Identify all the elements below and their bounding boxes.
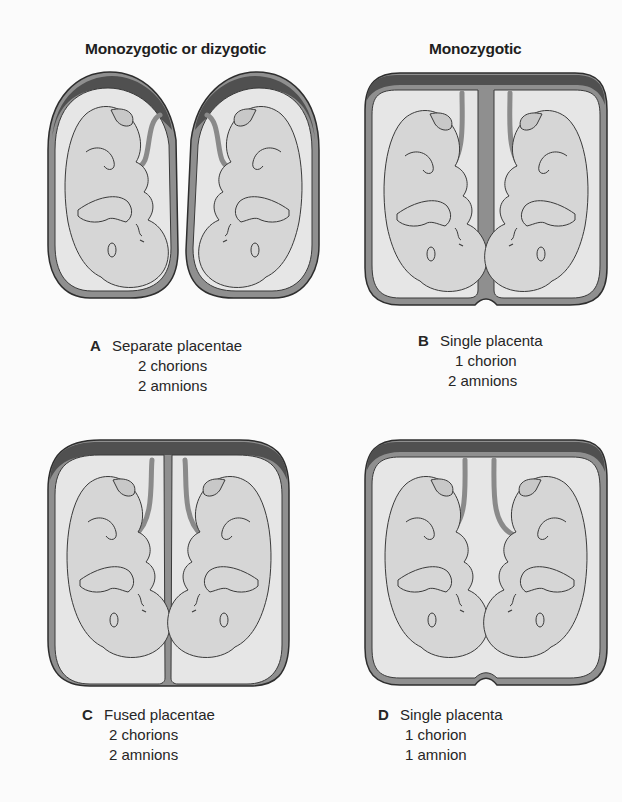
caption-c-amnions: 2 amnions: [82, 745, 215, 765]
caption-a: ASeparate placentae 2 chorions 2 amnions: [90, 336, 242, 396]
panel-c-illustration: [48, 440, 289, 686]
panel-d-illustration: [365, 440, 607, 685]
caption-c: CFused placentae 2 chorions 2 amnions: [82, 705, 215, 765]
caption-a-title: Separate placentae: [112, 337, 242, 354]
caption-c-title: Fused placentae: [104, 706, 215, 723]
caption-b: BSingle placenta 1 chorion 2 amnions: [418, 331, 543, 391]
panel-b-illustration: [365, 73, 607, 305]
caption-c-chorions: 2 chorions: [82, 725, 215, 745]
panel-letter-a: A: [90, 336, 112, 356]
panel-letter-d: D: [378, 705, 400, 725]
caption-a-amnions: 2 amnions: [90, 376, 242, 396]
caption-d-chorions: 1 chorion: [378, 725, 503, 745]
caption-a-chorions: 2 chorions: [90, 356, 242, 376]
caption-b-title: Single placenta: [440, 332, 543, 349]
caption-b-amnions: 2 amnions: [418, 371, 543, 391]
caption-d-amnions: 1 amnion: [378, 745, 503, 765]
twin-placentation-diagram: [0, 0, 622, 802]
caption-d-title: Single placenta: [400, 706, 503, 723]
panel-letter-b: B: [418, 331, 440, 351]
panel-letter-c: C: [82, 705, 104, 725]
panel-a-illustration: [48, 72, 319, 298]
caption-b-chorions: 1 chorion: [418, 351, 543, 371]
caption-d: DSingle placenta 1 chorion 1 amnion: [378, 705, 503, 765]
